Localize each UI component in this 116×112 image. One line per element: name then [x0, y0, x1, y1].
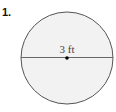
circle-diagram: 3 ft: [0, 0, 116, 112]
diameter-label: 3 ft: [60, 43, 75, 55]
center-point: [65, 56, 69, 60]
